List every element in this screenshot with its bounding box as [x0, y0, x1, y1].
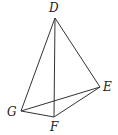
- vertex-label-d: D: [48, 1, 59, 15]
- tetrahedron-diagram: D E F G: [0, 0, 118, 135]
- edge-df: [54, 18, 55, 117]
- vertex-label-g: G: [7, 105, 17, 119]
- vertex-label-e: E: [102, 80, 112, 94]
- edge-fe: [54, 87, 100, 117]
- edge-de: [55, 18, 100, 87]
- edge-dg: [21, 18, 55, 111]
- vertex-label-f: F: [49, 120, 59, 134]
- diagram-svg: D E F G: [0, 0, 118, 135]
- edge-gf: [21, 111, 54, 117]
- vertex-labels: D E F G: [7, 1, 112, 134]
- edge-ge: [21, 87, 100, 111]
- edges: [21, 18, 100, 117]
